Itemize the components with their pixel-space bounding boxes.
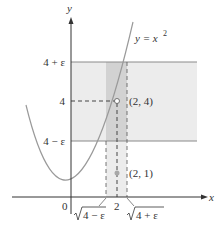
x-axis-arrow-icon [201, 195, 208, 200]
radicand-4-minus-eps: 4 − ε [83, 209, 105, 221]
x-tick-sqrt-4-minus-eps: 4 − ε [74, 207, 106, 221]
point-2-4-label: (2, 4) [129, 95, 153, 108]
x-tick-sqrt-4-plus-eps: 4 + ε [127, 207, 164, 221]
origin-label: 0 [62, 200, 68, 212]
x-tick-2: 2 [114, 200, 120, 212]
y-tick-4-minus-eps: 4 − ε [43, 135, 65, 147]
plot-canvas: y x 0 4 + ε 4 4 − ε 2 4 − ε 4 + ε (2, 4)… [0, 0, 218, 230]
radicand-4-plus-eps: 4 + ε [136, 209, 158, 221]
y-tick-4-plus-eps: 4 + ε [43, 56, 65, 68]
epsilon-delta-figure: y x 0 4 + ε 4 4 − ε 2 4 − ε 4 + ε (2, 4)… [0, 0, 218, 230]
y-axis-label: y [66, 2, 72, 14]
leader-sqrt-4-minus-eps [99, 198, 106, 206]
point-2-1-label: (2, 1) [129, 167, 153, 180]
function-label-base: y = x [134, 32, 158, 44]
function-label: y = x 2 [134, 29, 167, 44]
function-label-exponent: 2 [163, 29, 167, 38]
point-2-4-marker [115, 99, 120, 104]
y-axis-arrow-icon [69, 17, 74, 24]
x-axis-label: x [208, 191, 214, 203]
y-tick-4: 4 [60, 95, 66, 107]
leader-sqrt-4-plus-eps [127, 198, 134, 206]
point-2-1-marker [115, 171, 120, 176]
